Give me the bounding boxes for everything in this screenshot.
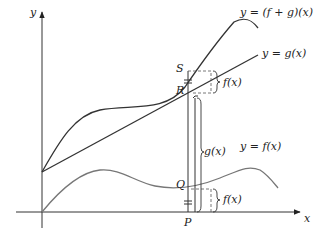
curve-f: [42, 168, 278, 212]
point-label-q: Q: [176, 178, 185, 191]
brace-label-top: f(x): [222, 76, 242, 89]
brace-label-middle: g(x): [204, 145, 226, 158]
curve-label-f-plus-g: y = (f + g)(x): [239, 6, 313, 19]
point-label-p: P: [183, 216, 192, 229]
brace-top: [213, 71, 220, 93]
curve-label-f: y = f(x): [239, 140, 281, 153]
curve-label-g: y = g(x): [261, 47, 306, 60]
point-label-s: S: [176, 62, 184, 75]
brace-bottom: [213, 189, 220, 212]
axes: y x: [16, 6, 311, 228]
point-label-r: R: [175, 84, 184, 97]
brace-label-bottom: f(x): [222, 193, 242, 206]
brace-middle: [197, 98, 204, 212]
y-axis-label: y: [29, 6, 37, 19]
x-axis-label: x: [304, 212, 311, 225]
function-sum-diagram: y x f(x) g(x) f(x) S R Q P y = (f + g)(x…: [0, 0, 323, 242]
